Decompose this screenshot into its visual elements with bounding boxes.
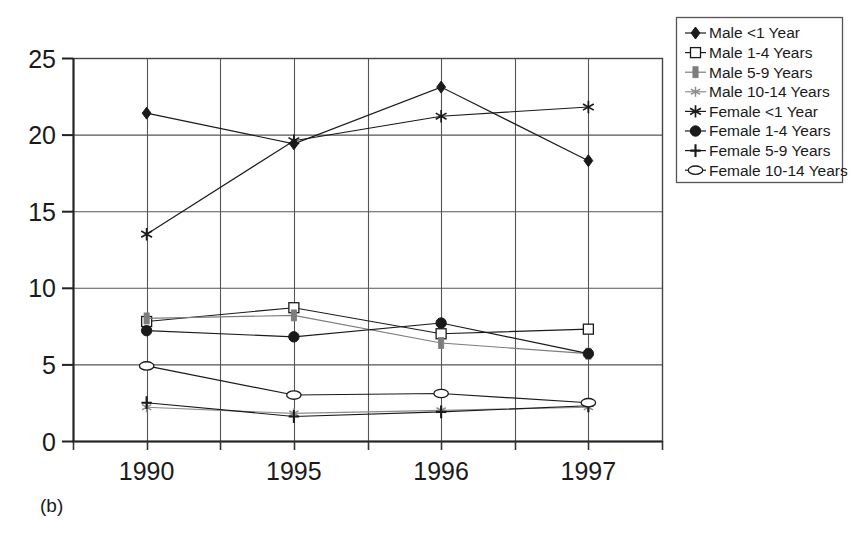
y-tick-label: 10 [28,274,56,302]
data-series-group [139,81,595,423]
legend-label: Male 10-14 Years [709,83,830,100]
data-series [139,362,595,407]
legend-label: Male 1-4 Years [709,44,813,61]
marker-filled-diamond [584,155,593,167]
data-series [144,310,591,359]
marker-filled-circle [583,348,593,358]
legend-label: Female <1 Year [709,103,818,120]
marker-open-ellipse [688,166,702,174]
figure-panel: 05101520251990199519961997Male <1 YearMa… [0,0,850,545]
data-point [289,332,299,342]
marker-open-ellipse [581,399,595,407]
data-point [437,81,446,93]
y-tick-label: 20 [28,121,56,149]
legend-marker [691,48,701,58]
legend-label: Female 5-9 Years [709,142,831,159]
data-point [142,107,151,119]
marker-filled-diamond [437,81,446,93]
data-point [583,324,593,334]
data-point [584,155,593,167]
line-chart: 05101520251990199519961997Male <1 YearMa… [0,0,850,545]
marker-open-ellipse [139,362,153,370]
data-series [142,402,593,418]
legend-marker [690,126,700,136]
data-point [141,325,151,335]
marker-thick-bar [144,313,149,324]
legend-label: Male 5-9 Years [709,64,813,81]
y-tick-label: 5 [42,351,56,379]
legend-label: Female 10-14 Years [709,162,848,179]
y-tick-label: 0 [42,428,56,456]
x-tick-label: 1990 [119,457,175,485]
data-point [434,389,448,397]
legend-marker [688,166,702,174]
marker-filled-diamond [142,107,151,119]
legend-item[interactable]: Female 10-14 Years [685,162,848,179]
marker-thick-bar [291,310,296,321]
data-series [141,101,594,241]
data-point [436,405,446,418]
marker-open-ellipse [287,391,301,399]
data-point [581,399,595,407]
y-tick-label: 15 [28,198,56,226]
marker-filled-circle [690,126,700,136]
marker-open-square [691,48,701,58]
data-point [139,362,153,370]
marker-asterisk [141,228,152,240]
legend: Male <1 YearMale 1-4 YearsMale 5-9 Years… [677,18,848,183]
marker-filled-circle [289,332,299,342]
x-tick-label: 1996 [413,457,469,485]
legend-label: Female 1-4 Years [709,122,831,139]
x-tick-label: 1997 [561,457,617,485]
data-point [291,310,296,321]
axes [62,58,663,450]
data-point [144,313,149,324]
marker-plus [436,405,446,418]
data-point [141,228,152,240]
marker-filled-circle [436,318,446,328]
data-series [141,318,593,359]
data-point [287,391,301,399]
legend-label: Male <1 Year [709,24,800,41]
marker-filled-circle [141,325,151,335]
marker-open-square [583,324,593,334]
series-line [147,366,589,403]
marker-thick-bar [693,67,698,78]
data-point [439,337,444,348]
x-tick-label: 1995 [266,457,322,485]
data-series [142,81,593,167]
y-tick-label: 25 [28,45,56,73]
series-line [147,107,589,234]
legend-marker [693,67,698,78]
data-point [583,348,593,358]
marker-thick-bar [439,337,444,348]
series-line [147,87,589,161]
data-point [436,318,446,328]
figure-caption: (b) [40,495,63,516]
marker-open-ellipse [434,389,448,397]
